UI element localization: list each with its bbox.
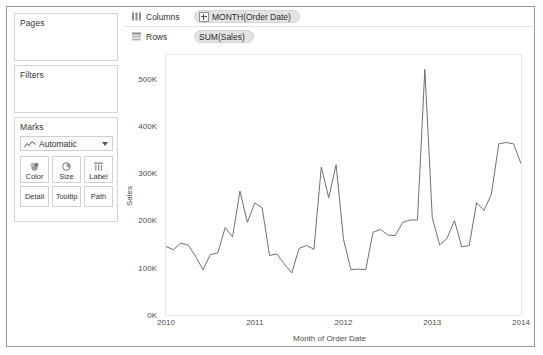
pages-card[interactable]: Pages <box>14 13 118 61</box>
x-axis-tick: 2014 <box>512 318 530 327</box>
x-axis-tick: 2013 <box>423 318 441 327</box>
left-panel: Pages Filters Marks Automatic <box>7 7 125 346</box>
chevron-down-icon[interactable] <box>102 142 108 146</box>
marks-card[interactable]: Marks Automatic <box>14 117 118 222</box>
mark-type-dropdown[interactable]: Automatic <box>20 136 113 151</box>
color-palette-icon <box>29 161 40 172</box>
marks-path-button[interactable]: Path <box>84 186 113 207</box>
x-axis-ticks: 20102011201220132014 <box>165 318 522 330</box>
x-axis-tick: 2011 <box>246 318 263 327</box>
marks-buttons-grid: Color Size <box>20 156 113 210</box>
marks-color-button[interactable]: Color <box>20 156 49 183</box>
y-axis-tick: 500K <box>138 74 161 83</box>
columns-icon <box>130 12 143 21</box>
chart-view: Sales 0K100K200K300K400K500K 20102011201… <box>125 46 534 346</box>
pill-sum-sales-label: SUM(Sales) <box>199 32 245 42</box>
y-axis-tick: 200K <box>138 216 161 225</box>
pill-month-order-date[interactable]: MONTH(Order Date) <box>194 10 300 23</box>
worksheet-area: Columns MONTH(Order Date) Rows SUM(Sale <box>125 7 534 346</box>
x-axis-tick: 2010 <box>157 318 175 327</box>
marks-size-button[interactable]: Size <box>52 156 81 183</box>
marks-tooltip-button[interactable]: Tooltip <box>52 186 81 207</box>
line-chart-icon <box>24 135 36 153</box>
pill-month-order-date-label: MONTH(Order Date) <box>212 12 291 22</box>
rows-shelf-well[interactable]: SUM(Sales) <box>194 30 528 43</box>
columns-shelf-well[interactable]: MONTH(Order Date) <box>194 10 528 23</box>
marks-size-label: Size <box>59 172 74 181</box>
marks-detail-button[interactable]: Detail <box>20 186 49 207</box>
marks-tooltip-label: Tooltip <box>56 192 78 201</box>
y-axis-ticks: 0K100K200K300K400K500K <box>125 54 161 316</box>
marks-card-title: Marks <box>15 118 117 132</box>
pages-card-title: Pages <box>15 14 117 28</box>
plot-area[interactable] <box>165 54 522 316</box>
marks-path-label: Path <box>91 192 106 201</box>
label-text-icon <box>93 161 104 172</box>
filters-card-title: Filters <box>15 66 117 80</box>
y-axis-tick: 400K <box>138 121 161 130</box>
y-axis-tick: 100K <box>138 263 161 272</box>
rows-shelf-label: Rows <box>143 32 194 42</box>
marks-detail-label: Detail <box>25 192 44 201</box>
tableau-worksheet-window: Pages Filters Marks Automatic <box>6 6 535 347</box>
columns-shelf[interactable]: Columns MONTH(Order Date) <box>125 7 534 27</box>
filters-card[interactable]: Filters <box>14 65 118 113</box>
rows-shelf[interactable]: Rows SUM(Sales) <box>125 27 534 47</box>
expand-plus-icon[interactable] <box>199 12 209 22</box>
sales-line-chart <box>166 55 521 315</box>
marks-label-label: Label <box>89 172 107 181</box>
pill-sum-sales[interactable]: SUM(Sales) <box>194 30 254 43</box>
columns-shelf-label: Columns <box>143 12 194 22</box>
marks-label-button[interactable]: Label <box>84 156 113 183</box>
rows-icon <box>130 32 143 41</box>
marks-color-label: Color <box>26 172 44 181</box>
x-axis-title: Month of Order Date <box>125 334 534 343</box>
x-axis-tick: 2012 <box>335 318 353 327</box>
y-axis-tick: 300K <box>138 169 161 178</box>
size-circle-icon <box>61 161 72 172</box>
mark-type-label: Automatic <box>36 139 102 149</box>
